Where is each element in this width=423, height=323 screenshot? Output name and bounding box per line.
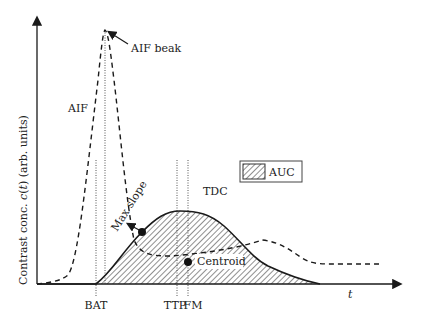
max-slope-point	[138, 228, 146, 236]
legend-label-auc: AUC	[268, 166, 295, 179]
y-axis-label: Contrast conc. c(t) (arb. units)	[17, 115, 30, 285]
auc-area	[96, 211, 320, 284]
legend-swatch-auc	[243, 164, 265, 179]
fm-label: FM	[184, 299, 203, 312]
legend: AUC	[240, 161, 302, 182]
perfusion-diagram: Contrast conc. c(t) (arb. units) t AIF b…	[0, 0, 423, 323]
aif-peak-label: AIF beak	[130, 42, 182, 55]
tdc-label: TDC	[203, 185, 228, 198]
max-slope-label: Max slope	[109, 178, 150, 233]
centroid-label: Centroid	[197, 255, 246, 268]
bat-label: BAT	[85, 299, 108, 312]
aif-peak-arrow	[109, 32, 128, 44]
x-axis-label: t	[348, 288, 353, 301]
aif-label: AIF	[67, 102, 88, 115]
centroid-point	[184, 258, 192, 266]
